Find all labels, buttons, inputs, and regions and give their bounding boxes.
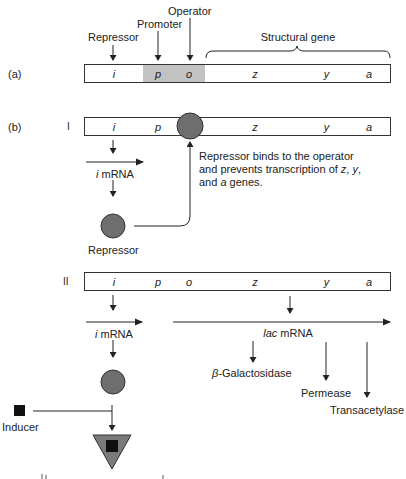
gene-a: a: [348, 117, 391, 136]
structural-gene-label: Structural gene: [261, 31, 336, 43]
panel-label-b: (b): [8, 121, 21, 133]
gene-i: i: [84, 117, 144, 136]
repressor-protein-icon: [101, 214, 125, 238]
case1-note: Repressor binds to the operator and prev…: [199, 150, 361, 189]
case-label-2: II: [63, 276, 69, 288]
mrna-word: mRNA: [98, 168, 133, 180]
gene-y: y: [305, 117, 349, 136]
gene-o: o: [173, 272, 206, 291]
operator-label: Operator: [168, 5, 211, 17]
gene-a: a: [348, 272, 391, 291]
case-label-1: I: [67, 121, 70, 133]
gene-i: i: [84, 64, 144, 83]
beta-galactosidase-label: β-Galactosidase: [212, 367, 292, 379]
inducer-icon: [14, 405, 25, 416]
gene-a: a: [348, 64, 391, 83]
beta-gal-word: -Galactosidase: [218, 367, 291, 379]
case2-i-mrna-label: i mRNA: [95, 328, 133, 340]
promoter-label: Promoter: [137, 18, 182, 30]
inducer-label: Inducer: [2, 421, 39, 433]
lac-mrna-label: lac mRNA: [263, 327, 313, 339]
note-line-3: and a genes.: [199, 176, 361, 189]
gene-z: z: [205, 117, 306, 136]
gene-p: p: [143, 272, 174, 291]
gene-p: p: [143, 64, 174, 83]
note-line-2: and prevents transcription of z, y,: [199, 163, 361, 176]
gene-p: p: [143, 117, 174, 136]
repressor-protein-icon: [101, 370, 125, 394]
structural-gene-brace: [206, 46, 390, 58]
lac-operon-diagram: Repressor Promoter Operator Structural g…: [0, 0, 406, 479]
note-line-1: Repressor binds to the operator: [199, 150, 361, 163]
gene-o: o: [173, 64, 206, 83]
case1-arrows: [86, 140, 190, 226]
case1-i-mrna-label: i mRNA: [96, 168, 134, 180]
mrna-word: mRNA: [277, 327, 312, 339]
case1-repressor-label: Repressor: [88, 244, 139, 256]
cutoff-text-fragment: [42, 474, 163, 479]
gene-y: y: [305, 64, 349, 83]
transacetylase-label: Transacetylase: [330, 404, 404, 416]
permease-label: Permease: [301, 387, 351, 399]
gene-o-blocked: [173, 117, 206, 136]
lac-word: lac: [263, 327, 277, 339]
panel-label-a: (a): [8, 68, 21, 80]
gene-i: i: [84, 272, 144, 291]
gene-z: z: [205, 272, 306, 291]
gene-z: z: [205, 64, 306, 83]
gene-y: y: [305, 272, 349, 291]
mrna-word: mRNA: [97, 328, 132, 340]
repressor-gene-label: Repressor: [88, 31, 139, 43]
inactive-repressor-complex-icon: [93, 435, 131, 469]
